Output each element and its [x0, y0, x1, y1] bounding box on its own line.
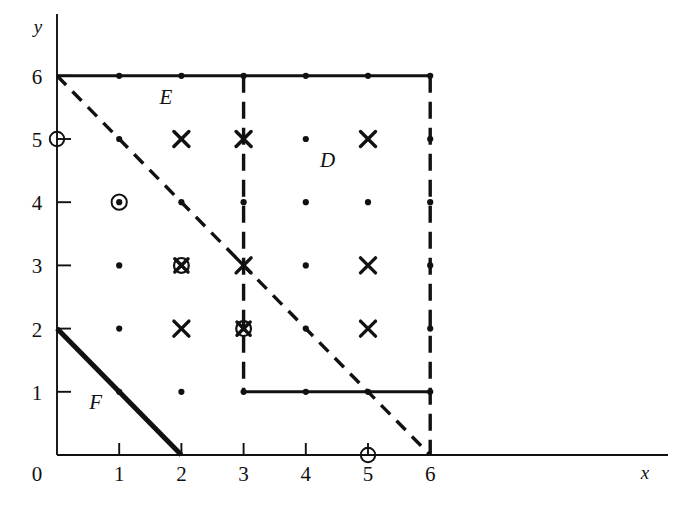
region-label-D: D	[319, 148, 335, 172]
marker-dot-4-1	[303, 389, 309, 395]
marker-circle-cross-dot-2-3	[174, 258, 189, 273]
marker-dot-2-4	[178, 199, 184, 205]
marker-dot-6-1	[427, 389, 433, 395]
marker-cross-5-2	[361, 321, 376, 336]
region-label-F: F	[88, 390, 102, 414]
marker-dot-5-1	[365, 389, 371, 395]
marker-cross-5-3	[361, 258, 376, 273]
marker-dot-5-4	[365, 199, 371, 205]
y-tick-label-2: 2	[32, 318, 43, 342]
x-tick-label-5: 5	[363, 462, 374, 486]
y-tick-label-3: 3	[32, 254, 43, 278]
marker-dot-3-1	[241, 389, 247, 395]
y-tick-label-4: 4	[32, 191, 43, 215]
marker-cross-2-5	[174, 132, 189, 147]
marker-dot-1-3	[116, 262, 122, 268]
text-layer: 0123456123456xyEDF	[32, 16, 650, 486]
x-tick-label-6: 6	[425, 462, 436, 486]
marker-dot-4-2	[303, 326, 309, 332]
y-tick-label-1: 1	[32, 381, 43, 405]
marker-dot-4-5	[303, 136, 309, 142]
marker-dot-1-5	[116, 136, 122, 142]
region-label-E: E	[158, 85, 172, 109]
marker-dot-1-6	[116, 73, 122, 79]
y-axis-label: y	[32, 16, 43, 37]
marker-dot-6-5	[427, 136, 433, 142]
marker-dot-2-6	[178, 73, 184, 79]
marker-dot-6-3	[427, 262, 433, 268]
markers-layer	[50, 73, 434, 463]
marker-dot-2-1	[178, 389, 184, 395]
marker-dot-6-4	[427, 199, 433, 205]
marker-cross-2-2	[174, 321, 189, 336]
marker-circle-dot-1-4	[112, 195, 127, 210]
marker-dot-6-6	[427, 73, 433, 79]
x-tick-label-1: 1	[114, 462, 125, 486]
marker-dot-3-6	[241, 73, 247, 79]
marker-dot-6-2	[427, 326, 433, 332]
x-tick-label-4: 4	[301, 462, 312, 486]
marker-dot-3-4	[241, 199, 247, 205]
x-axis-label: x	[640, 462, 650, 483]
y-tick-label-5: 5	[32, 128, 43, 152]
marker-dot-4-6	[303, 73, 309, 79]
marker-dot-1-1	[116, 389, 122, 395]
axes-layer	[57, 14, 668, 455]
x-tick-label-2: 2	[176, 462, 187, 486]
marker-cross-5-5	[361, 132, 376, 147]
x-tick-label-3: 3	[238, 462, 249, 486]
marker-dot-5-6	[365, 73, 371, 79]
marker-dot-1-2	[116, 326, 122, 332]
y-tick-label-6: 6	[32, 65, 43, 89]
marker-dot-4-3	[303, 262, 309, 268]
plot-canvas: 0123456123456xyEDF	[0, 0, 675, 509]
marker-dot-4-4	[303, 199, 309, 205]
tick-label-origin: 0	[32, 462, 43, 486]
lattice-diagram: 0123456123456xyEDF	[0, 0, 675, 509]
